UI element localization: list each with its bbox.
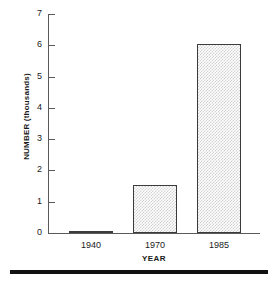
bar-1970 xyxy=(133,185,177,233)
y-tick-4: 4 xyxy=(49,108,55,109)
y-tick-label-1: 1 xyxy=(28,196,42,207)
y-tick-label-2: 2 xyxy=(28,164,42,175)
y-tick-label-6: 6 xyxy=(28,39,42,50)
y-tick-label-5: 5 xyxy=(28,71,42,82)
plot-area: 0 1 2 3 4 5 6 7 1940 1970 1985 xyxy=(48,14,260,234)
x-tick-label-1985: 1985 xyxy=(189,240,249,251)
x-axis-line xyxy=(48,233,260,234)
y-tick-2: 2 xyxy=(49,170,55,171)
y-axis-line xyxy=(48,14,49,234)
y-tick-7: 7 xyxy=(49,14,55,15)
y-tick-label-0: 0 xyxy=(28,227,42,238)
bar-1985 xyxy=(197,44,241,233)
y-tick-label-4: 4 xyxy=(28,102,42,113)
x-tick-label-1940: 1940 xyxy=(61,240,121,251)
bar-1940 xyxy=(69,231,113,233)
x-axis-title: YEAR xyxy=(48,254,260,263)
y-tick-0: 0 xyxy=(49,233,55,234)
y-tick-1: 1 xyxy=(49,202,55,203)
y-tick-5: 5 xyxy=(49,77,55,78)
bottom-rule xyxy=(10,270,268,274)
x-tick-label-1970: 1970 xyxy=(125,240,185,251)
y-tick-3: 3 xyxy=(49,139,55,140)
bar-chart-figure: NUMBER (thousands) 0 1 2 3 4 5 6 7 xyxy=(0,0,276,283)
y-tick-label-3: 3 xyxy=(28,133,42,144)
y-tick-6: 6 xyxy=(49,45,55,46)
y-tick-label-7: 7 xyxy=(28,8,42,19)
